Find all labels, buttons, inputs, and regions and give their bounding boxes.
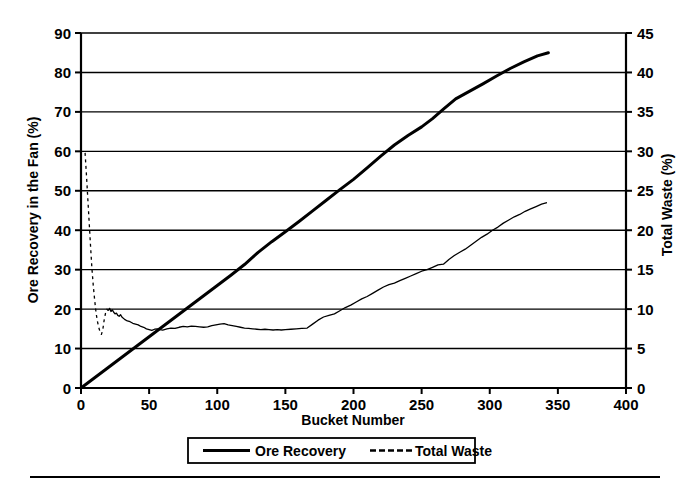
y-tick-label-right-25: 25	[637, 182, 654, 199]
ore-recovery-waste-chart: 0102030405060708090051015202530354045050…	[0, 0, 690, 484]
y-tick-label-right-10: 10	[637, 301, 654, 318]
y-axis-left-title: Ore Recovery in the Fan (%)	[25, 117, 41, 304]
y-tick-label-left-50: 50	[54, 182, 71, 199]
x-tick-label-200: 200	[341, 396, 366, 413]
y-tick-label-right-15: 15	[637, 261, 654, 278]
figure-container: 0102030405060708090051015202530354045050…	[0, 0, 690, 484]
y-tick-label-left-40: 40	[54, 222, 71, 239]
legend-label-total-waste: Total Waste	[415, 443, 492, 459]
y-tick-label-right-30: 30	[637, 143, 654, 160]
y-tick-label-right-40: 40	[637, 64, 654, 81]
y-axis-right-title: Total Waste (%)	[659, 154, 675, 257]
y-tick-label-right-5: 5	[637, 340, 645, 357]
y-tick-label-left-20: 20	[54, 301, 71, 318]
x-tick-label-150: 150	[273, 396, 298, 413]
y-tick-label-left-10: 10	[54, 340, 71, 357]
y-tick-label-right-35: 35	[637, 103, 654, 120]
x-tick-label-350: 350	[545, 396, 570, 413]
y-tick-label-left-30: 30	[54, 261, 71, 278]
y-tick-label-left-60: 60	[54, 143, 71, 160]
y-tick-label-right-0: 0	[637, 380, 645, 397]
x-tick-label-100: 100	[205, 396, 230, 413]
legend-label-ore-recovery: Ore Recovery	[255, 443, 346, 459]
x-tick-label-300: 300	[477, 396, 502, 413]
y-tick-label-right-20: 20	[637, 222, 654, 239]
y-tick-label-left-80: 80	[54, 64, 71, 81]
x-tick-label-250: 250	[409, 396, 434, 413]
y-tick-label-left-70: 70	[54, 103, 71, 120]
x-tick-label-0: 0	[77, 396, 85, 413]
y-tick-label-left-0: 0	[63, 380, 71, 397]
y-tick-label-right-45: 45	[637, 25, 654, 42]
x-tick-label-400: 400	[613, 396, 638, 413]
x-tick-label-50: 50	[141, 396, 158, 413]
y-tick-label-left-90: 90	[54, 25, 71, 42]
chart-legend: Ore Recovery Total Waste	[188, 438, 492, 463]
x-axis-title: Bucket Number	[301, 412, 405, 428]
